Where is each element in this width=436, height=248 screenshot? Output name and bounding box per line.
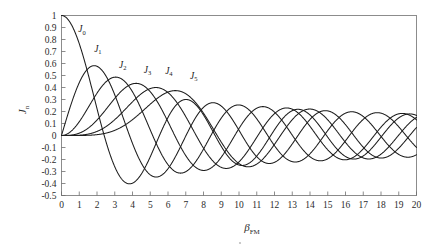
y-tick-label: 0.2 <box>45 107 57 117</box>
y-tick-label: 0.6 <box>45 59 57 69</box>
x-tick-label: 1 <box>77 200 82 210</box>
y-tick-label: 1 <box>52 11 57 21</box>
x-tick-label: 2 <box>95 200 100 210</box>
y-tick-label: 0 <box>52 131 57 141</box>
x-tick-label: 7 <box>183 200 188 210</box>
x-tick-label: 3 <box>112 200 117 210</box>
x-tick-label: 8 <box>201 200 206 210</box>
x-tick-label: 0 <box>59 200 64 210</box>
x-tick-label: 11 <box>252 200 261 210</box>
x-tick-label: 19 <box>394 200 404 210</box>
x-tick-label: 15 <box>323 200 333 210</box>
y-tick-label: 0.4 <box>45 83 57 93</box>
bessel-function-chart: 10.90.80.70.60.50.40.30.20.10-0.1-0.2-0.… <box>0 0 436 248</box>
x-tick-label: 5 <box>148 200 153 210</box>
y-tick-label: -0.1 <box>41 143 56 153</box>
chart-svg: 10.90.80.70.60.50.40.30.20.10-0.1-0.2-0.… <box>0 0 436 248</box>
x-tick-label: 6 <box>166 200 171 210</box>
y-tick-label: 0.1 <box>45 119 57 129</box>
y-tick-label: 0.8 <box>45 35 57 45</box>
y-tick-label: 0.3 <box>45 95 57 105</box>
x-tick-label: 12 <box>270 200 280 210</box>
x-tick-label: 9 <box>219 200 224 210</box>
y-tick-label: -0.4 <box>41 179 56 189</box>
x-tick-label: 10 <box>234 200 244 210</box>
x-tick-label: 17 <box>359 200 369 210</box>
x-tick-label: 4 <box>130 200 135 210</box>
y-tick-label: -0.3 <box>41 167 56 177</box>
y-tick-label: -0.2 <box>41 155 56 165</box>
y-tick-label: 0.5 <box>45 71 57 81</box>
page-speck <box>239 242 241 244</box>
x-tick-label: 20 <box>412 200 422 210</box>
y-tick-label: -0.5 <box>41 191 56 201</box>
x-tick-label: 16 <box>341 200 351 210</box>
y-tick-label: 0.9 <box>45 23 57 33</box>
x-tick-label: 13 <box>288 200 298 210</box>
x-tick-label: 14 <box>305 200 315 210</box>
y-tick-label: 0.7 <box>45 47 57 57</box>
x-tick-label: 18 <box>376 200 386 210</box>
